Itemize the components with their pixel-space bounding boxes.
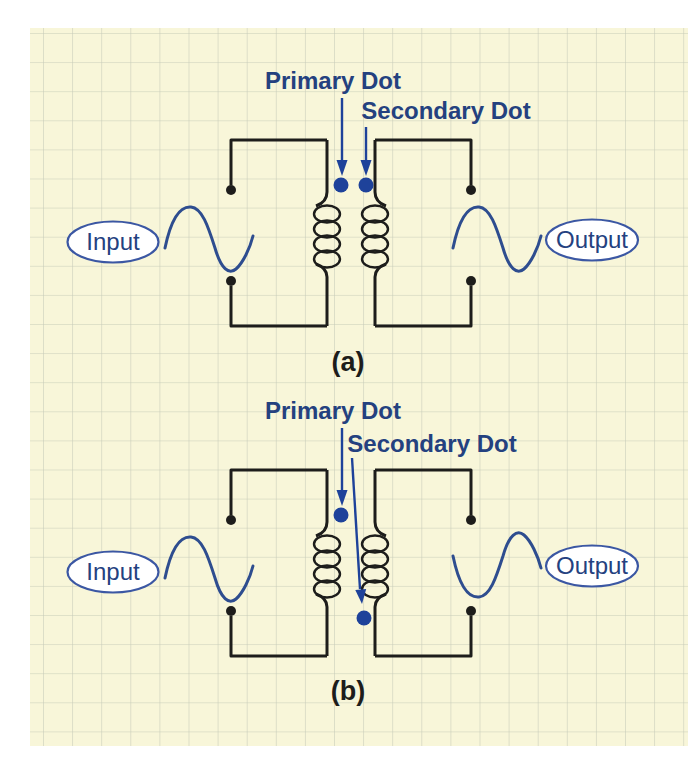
secondary-dot-label-b: Secondary Dot [347, 430, 516, 457]
figure-canvas: Primary Dot Secondary Dot Input Output (… [0, 0, 698, 759]
primary-dot-marker-b [334, 508, 349, 523]
transformer-dot-convention-figure: Primary Dot Secondary Dot Input Output (… [0, 0, 698, 759]
secondary-dot-marker-b [357, 611, 372, 626]
output-label-a: Output [556, 226, 628, 253]
input-label-a: Input [86, 228, 140, 255]
caption-b: (b) [331, 676, 365, 706]
input-label-b: Input [86, 558, 140, 585]
primary-dot-label-b: Primary Dot [265, 397, 401, 424]
primary-dot-marker-a [334, 178, 349, 193]
graph-paper-grid [30, 28, 688, 746]
primary-dot-label-a: Primary Dot [265, 67, 401, 94]
secondary-dot-label-a: Secondary Dot [361, 97, 530, 124]
secondary-dot-marker-a [359, 178, 374, 193]
output-label-b: Output [556, 552, 628, 579]
caption-a: (a) [332, 347, 365, 377]
